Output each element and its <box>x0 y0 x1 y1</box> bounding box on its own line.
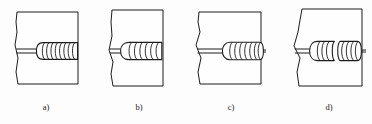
panel-b: b) <box>109 10 163 112</box>
panel-c-label: c) <box>228 102 235 112</box>
panel-d: d) <box>294 9 366 112</box>
weld-bead-c <box>222 42 263 60</box>
figure-canvas: a) b) <box>0 0 372 124</box>
weld-bead-figure: a) b) <box>0 0 372 124</box>
panel-a: a) <box>15 12 78 112</box>
panel-b-label: b) <box>135 102 142 112</box>
panel-d-label: d) <box>325 102 332 112</box>
panel-c: c) <box>196 12 266 112</box>
panel-a-label: a) <box>43 102 50 112</box>
